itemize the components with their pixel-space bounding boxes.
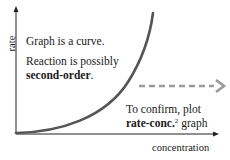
annotation-confirm-graph: rate-conc.2 graph <box>126 117 207 130</box>
x-axis-arrowhead-icon <box>213 132 219 137</box>
x-axis-label: concentration <box>152 142 209 153</box>
annotation-confirm: To confirm, plot <box>126 103 201 116</box>
annotation-reaction: Reaction is possibly <box>26 55 119 68</box>
y-axis-label: rate <box>6 29 17 59</box>
annotation-confirm-bold: rate-conc. <box>126 117 175 129</box>
y-axis-arrowhead-icon <box>14 6 19 12</box>
annotation-confirm-suffix: graph <box>178 117 207 129</box>
annotation-reaction-prefix: Reaction is possibly <box>26 55 119 67</box>
annotation-order: second-order. <box>26 69 93 82</box>
annotation-curve: Graph is a curve. <box>26 35 105 48</box>
annotation-order-suffix: . <box>91 69 94 81</box>
annotation-order-bold: second-order <box>26 69 91 81</box>
dashed-arrow-head-icon <box>216 80 224 92</box>
